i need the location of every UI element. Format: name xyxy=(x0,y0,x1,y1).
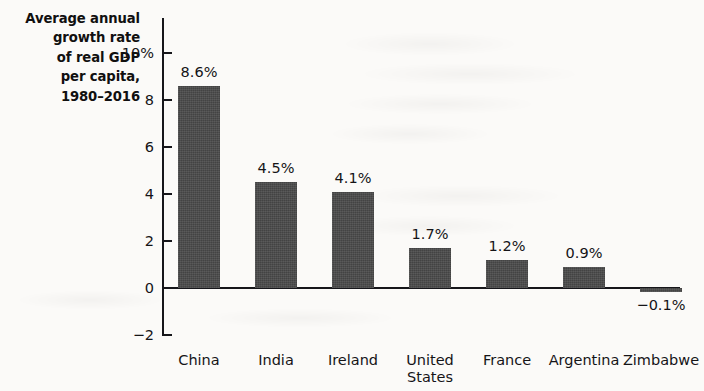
y-tick-5 xyxy=(164,287,172,289)
value-label-united-states: 1.7% xyxy=(387,227,473,242)
bar-zimbabwe xyxy=(640,288,682,292)
bar-argentina xyxy=(563,267,605,288)
category-label-zimbabwe: Zimbabwe xyxy=(616,352,704,369)
y-tick-6 xyxy=(164,334,172,336)
y-tick-label-6: −2 xyxy=(108,328,154,343)
y-tick-3 xyxy=(164,193,172,195)
y-tick-0 xyxy=(164,52,172,54)
y-tick-4 xyxy=(164,240,172,242)
value-label-ireland: 4.1% xyxy=(310,171,396,186)
value-label-zimbabwe: −0.1% xyxy=(618,298,704,313)
category-label-line: States xyxy=(385,369,475,386)
category-label-line: Zimbabwe xyxy=(616,352,704,369)
y-tick-1 xyxy=(164,99,172,101)
y-tick-label-1: 8 xyxy=(108,93,154,108)
value-label-india: 4.5% xyxy=(233,161,319,176)
y-tick-label-5: 0 xyxy=(108,281,154,296)
value-label-france: 1.2% xyxy=(464,239,550,254)
bar-india xyxy=(255,182,297,288)
value-label-argentina: 0.9% xyxy=(541,246,627,261)
bar-france xyxy=(486,260,528,288)
y-tick-label-0: 10% xyxy=(108,46,154,61)
bar-ireland xyxy=(332,192,374,288)
bar-united-states xyxy=(409,248,451,288)
value-label-china: 8.6% xyxy=(156,65,242,80)
y-tick-label-3: 4 xyxy=(108,187,154,202)
y-tick-label-4: 2 xyxy=(108,234,154,249)
y-tick-2 xyxy=(164,146,172,148)
bar-china xyxy=(178,86,220,288)
y-tick-label-2: 6 xyxy=(108,140,154,155)
